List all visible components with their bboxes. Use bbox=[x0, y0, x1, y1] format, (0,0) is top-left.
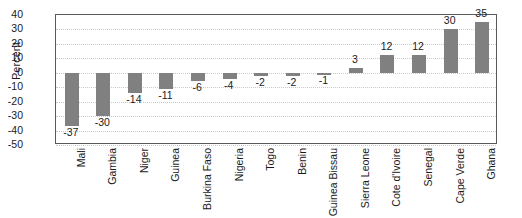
bar-value-label: -1 bbox=[303, 75, 343, 86]
x-axis-label-wrap: Sierra Leone bbox=[339, 148, 371, 218]
bar-chart: Percent 403020100-10-20-30-40-50 MaliGam… bbox=[0, 0, 522, 218]
bar[interactable] bbox=[159, 73, 173, 89]
bar[interactable] bbox=[475, 22, 489, 73]
y-axis-tick-label: -30 bbox=[0, 110, 23, 121]
x-axis-tick-label: Senegal bbox=[423, 148, 434, 187]
x-axis-tick-label: Ghana bbox=[486, 148, 497, 180]
bar-value-label: 12 bbox=[398, 41, 438, 52]
bar[interactable] bbox=[96, 73, 110, 116]
bar[interactable] bbox=[65, 73, 79, 126]
x-axis-label-wrap: Niger bbox=[118, 148, 150, 218]
bar[interactable] bbox=[349, 68, 363, 72]
x-axis-label-wrap: Nigeria bbox=[213, 148, 245, 218]
x-axis-label-wrap: Senegal bbox=[402, 148, 434, 218]
x-axis-label-wrap: Cote d'Ivoire bbox=[371, 148, 403, 218]
bar[interactable] bbox=[128, 73, 142, 93]
x-axis-tick-label: Niger bbox=[139, 148, 150, 173]
y-axis-tick-label: -20 bbox=[0, 95, 23, 106]
bar-slot[interactable] bbox=[151, 15, 183, 143]
bar-slot[interactable] bbox=[372, 15, 404, 143]
x-axis-tick-label: Cote d'Ivoire bbox=[391, 148, 402, 207]
y-axis-tick-label: -50 bbox=[0, 139, 23, 150]
bar[interactable] bbox=[444, 29, 458, 72]
x-axis-tick-label: Togo bbox=[265, 148, 276, 171]
bar[interactable] bbox=[412, 55, 426, 72]
y-axis-tick-label: 30 bbox=[0, 23, 23, 34]
bar-value-label: -30 bbox=[82, 117, 122, 128]
x-axis-tick-label: Nigeria bbox=[234, 148, 245, 181]
bar-slot[interactable] bbox=[403, 15, 435, 143]
bar[interactable] bbox=[223, 73, 237, 79]
y-axis-tick-label: 40 bbox=[0, 9, 23, 20]
x-axis-label-wrap: Guinea bbox=[150, 148, 182, 218]
bar[interactable] bbox=[380, 55, 394, 72]
bar-slot[interactable] bbox=[466, 15, 498, 143]
bar-value-label: 3 bbox=[335, 54, 375, 65]
y-axis-tick-label: 0 bbox=[0, 67, 23, 78]
bar-slot[interactable] bbox=[340, 15, 372, 143]
x-axis-label-wrap: Guinea Bissau bbox=[308, 148, 340, 218]
bar-value-label: -37 bbox=[51, 127, 91, 138]
x-axis-label-wrap: Gambia bbox=[87, 148, 119, 218]
x-axis-label-wrap: Togo bbox=[244, 148, 276, 218]
y-axis-tick-label: 20 bbox=[0, 38, 23, 49]
y-axis-tick-label: -10 bbox=[0, 81, 23, 92]
y-axis-tick-label: 10 bbox=[0, 52, 23, 63]
x-axis-tick-label: Guinea bbox=[170, 148, 181, 182]
x-axis-tick-label: Mali bbox=[76, 148, 87, 167]
x-axis-label-wrap: Cape Verde bbox=[434, 148, 466, 218]
bar-slot[interactable] bbox=[435, 15, 467, 143]
y-axis-tick-label: -40 bbox=[0, 124, 23, 135]
x-axis-label-wrap: Burkina Faso bbox=[181, 148, 213, 218]
x-axis-tick-label: Benin bbox=[297, 148, 308, 175]
x-axis-tick-label: Cape Verde bbox=[455, 148, 466, 203]
x-axis-tick-label: Gambia bbox=[107, 148, 118, 185]
gridline bbox=[56, 145, 496, 146]
x-axis-tick-label: Sierra Leone bbox=[360, 148, 371, 208]
bar[interactable] bbox=[191, 73, 205, 82]
x-axis-tick-label: Burkina Faso bbox=[202, 148, 213, 210]
bar-value-label: 35 bbox=[461, 8, 501, 19]
x-axis-label-wrap: Benin bbox=[276, 148, 308, 218]
x-axis-tick-label: Guinea Bissau bbox=[328, 148, 339, 216]
x-axis-label-wrap: Ghana bbox=[465, 148, 497, 218]
bar-slot[interactable] bbox=[119, 15, 151, 143]
x-axis-label-wrap: Mali bbox=[55, 148, 87, 218]
